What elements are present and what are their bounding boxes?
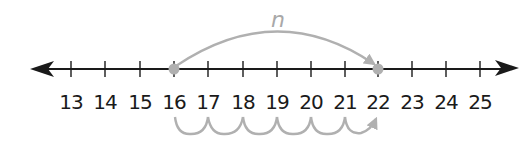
number-line-diagram: n 13 14 15 16 17 18 19 20 21 22 23 — [0, 0, 531, 154]
tick-label: 19 — [265, 90, 289, 114]
tick-label: 24 — [434, 90, 458, 114]
tick-label: 16 — [162, 90, 186, 114]
big-jump-arc — [176, 31, 374, 66]
point-22 — [373, 64, 384, 75]
jump-variable-label: n — [271, 7, 285, 32]
tick-label: 22 — [366, 90, 389, 114]
tick-labels: 13 14 15 16 17 18 19 20 21 22 23 24 25 — [59, 90, 491, 114]
tick-label: 18 — [231, 90, 255, 114]
tick-label: 15 — [128, 90, 151, 114]
tick-label: 14 — [93, 90, 117, 114]
point-16 — [169, 64, 180, 75]
tick-label: 13 — [59, 90, 83, 114]
tick-label: 17 — [196, 90, 220, 114]
tick-label: 23 — [400, 90, 424, 114]
tick-label: 20 — [299, 90, 323, 114]
tick-label: 25 — [468, 90, 491, 114]
unit-hops — [175, 117, 376, 134]
tick-label: 21 — [333, 90, 356, 114]
